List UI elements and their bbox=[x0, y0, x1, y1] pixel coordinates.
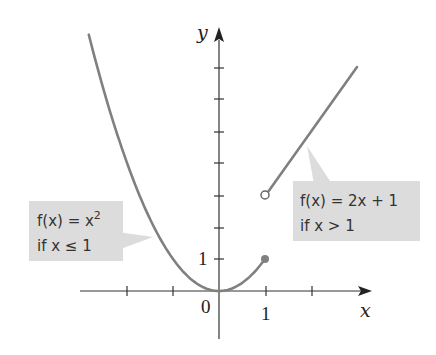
x-tick-label-1: 1 bbox=[261, 303, 271, 324]
origin-label: 0 bbox=[201, 296, 211, 317]
y-axis bbox=[214, 40, 224, 339]
closed-endpoint-dot bbox=[261, 255, 269, 263]
x-axis-label: x bbox=[360, 299, 371, 321]
callout-right: f(x) = 2x + 1 if x > 1 bbox=[293, 146, 420, 241]
open-endpoint-dot bbox=[261, 191, 269, 199]
callout-left-line2: if x ≤ 1 bbox=[37, 237, 92, 255]
callout-right-line2: if x > 1 bbox=[300, 217, 355, 235]
callout-right-pointer bbox=[307, 146, 332, 184]
callout-right-line1: f(x) = 2x + 1 bbox=[300, 192, 398, 210]
y-tick-label-1: 1 bbox=[198, 248, 208, 269]
callout-left-line1: f(x) = x2 bbox=[37, 209, 101, 230]
y-axis-arrow-icon bbox=[214, 27, 224, 42]
callout-left: f(x) = x2 if x ≤ 1 bbox=[29, 201, 153, 261]
callout-left-pointer bbox=[118, 232, 153, 250]
piecewise-function-graph: f(x) = x2 if x ≤ 1 f(x) = 2x + 1 if x > … bbox=[0, 0, 436, 355]
y-axis-label: y bbox=[196, 21, 208, 43]
